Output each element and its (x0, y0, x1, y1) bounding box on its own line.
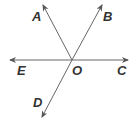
diagram-canvas: A B C E O D (0, 0, 138, 122)
label-c: C (117, 63, 127, 78)
label-a: A (31, 9, 41, 24)
label-b: B (103, 9, 112, 24)
label-e: E (17, 63, 26, 78)
ray-od (42, 60, 72, 117)
ray-ob (72, 5, 102, 60)
ray-oa (43, 5, 72, 60)
ray-diagram: A B C E O D (0, 0, 138, 122)
label-o: O (72, 63, 82, 78)
label-d: D (33, 95, 43, 110)
